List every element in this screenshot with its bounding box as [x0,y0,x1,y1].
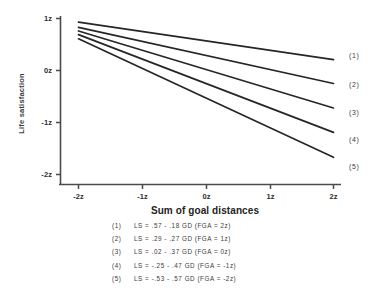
equation-row: (4) LS = -.25 - .47 GD (FGA = -1z) [112,262,302,275]
equation-text: LS = -.53 - .57 GD (FGA = -2z) [134,275,302,282]
equation-text: LS = .29 - .27 GD (FGA = 1z) [134,235,302,242]
series-end-label-2: (2) [349,81,359,88]
series-line-1 [79,22,334,59]
series-end-label-1: (1) [349,52,359,59]
equation-tag: (4) [112,262,134,269]
equation-tag: (3) [112,248,134,255]
x-tick-label-neg2z: -2z [64,192,94,201]
series-line-5 [79,39,334,158]
regression-line-chart: Life satisfaction 1z 0z -1z -2z -2z -1z … [0,0,376,301]
equation-row: (2) LS = .29 - .27 GD (FGA = 1z) [112,235,302,248]
series-line-3 [79,31,334,108]
series-end-label-5: (5) [349,163,359,170]
equation-text: LS = .02 - .37 GD (FGA = 0z) [134,248,302,255]
series-line-2 [79,27,334,83]
series-end-label-4: (4) [349,136,359,143]
y-tick-label-1z: 1z [26,14,52,23]
x-axis-title: Sum of goal distances [60,205,350,216]
equation-tag: (1) [112,222,134,229]
equation-text: LS = -.25 - .47 GD (FGA = -1z) [134,262,302,269]
equation-tag: (5) [112,275,134,282]
x-tick-label-0z: 0z [192,192,222,201]
equation-row: (3) LS = .02 - .37 GD (FGA = 0z) [112,248,302,261]
equation-tag: (2) [112,235,134,242]
x-tick-label-neg1z: -1z [128,192,158,201]
y-tick-label-neg2z: -2z [26,170,52,179]
equation-row: (1) LS = .57 - .18 GD (FGA = 2z) [112,222,302,235]
y-axis-title: Life satisfaction [17,54,26,154]
series-end-label-3: (3) [349,109,359,116]
x-tick-label-2z: 2z [319,192,349,201]
equation-text: LS = .57 - .18 GD (FGA = 2z) [134,222,302,229]
series-line-4 [79,35,334,133]
series-lines [79,22,334,157]
equation-row: (5) LS = -.53 - .57 GD (FGA = -2z) [112,275,302,288]
y-tick-label-neg1z: -1z [26,118,52,127]
equation-legend: (1) LS = .57 - .18 GD (FGA = 2z) (2) LS … [112,222,302,288]
y-tick-label-0z: 0z [26,66,52,75]
x-tick-label-1z: 1z [256,192,286,201]
